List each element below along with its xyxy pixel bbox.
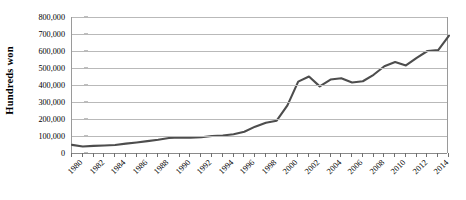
- x-tick-mark: [168, 153, 169, 157]
- x-tick-mark: [437, 153, 438, 157]
- gridline: [72, 85, 447, 86]
- series-polyline: [72, 36, 449, 147]
- x-tick-mark: [146, 153, 147, 157]
- x-tick-label: 2004: [325, 158, 343, 176]
- x-tick-label: 1984: [109, 158, 127, 176]
- x-tick-mark: [426, 153, 427, 157]
- gridline: [72, 51, 447, 52]
- x-tick-mark: [189, 153, 190, 157]
- x-tick-mark: [93, 153, 94, 157]
- x-tick-label: 1990: [174, 158, 192, 176]
- x-tick-label: 2012: [411, 158, 429, 176]
- x-tick-mark: [340, 153, 341, 157]
- x-tick-mark: [394, 153, 395, 157]
- x-tick-mark: [71, 153, 72, 157]
- x-tick-label: 1980: [66, 158, 84, 176]
- y-tick-label: 500,000: [38, 64, 65, 73]
- x-tick-label: 1982: [88, 158, 106, 176]
- x-tick-label: 2010: [389, 158, 407, 176]
- x-tick-mark: [448, 153, 449, 157]
- plot-area: [71, 17, 448, 153]
- x-tick-mark: [297, 153, 298, 157]
- y-tick-label: 800,000: [38, 13, 65, 22]
- y-tick-label: 700,000: [38, 30, 65, 39]
- x-tick-mark: [254, 153, 255, 157]
- x-tick-mark: [243, 153, 244, 157]
- x-tick-mark: [233, 153, 234, 157]
- y-tick-label: 200,000: [38, 115, 65, 124]
- x-axis-tick-labels: 1980198219841986198819901992199419961998…: [71, 158, 448, 200]
- x-tick-mark: [373, 153, 374, 157]
- x-tick-mark: [114, 153, 115, 157]
- gridline: [72, 102, 447, 103]
- x-tick-label: 2000: [282, 158, 300, 176]
- x-tick-mark: [125, 153, 126, 157]
- gridline: [72, 119, 447, 120]
- x-tick-label: 1998: [260, 158, 278, 176]
- x-tick-mark: [136, 153, 137, 157]
- line-chart: Hundreds won 0100,000200,000300,000400,0…: [0, 0, 466, 200]
- x-tick-label: 1986: [131, 158, 149, 176]
- x-tick-label: 2006: [346, 158, 364, 176]
- x-tick-label: 2002: [303, 158, 321, 176]
- x-tick-mark: [211, 153, 212, 157]
- x-tick-mark: [265, 153, 266, 157]
- gridline: [72, 34, 447, 35]
- gridline: [72, 17, 447, 18]
- x-tick-label: 1992: [195, 158, 213, 176]
- x-tick-mark: [362, 153, 363, 157]
- y-axis-tick-labels: 0100,000200,000300,000400,000500,000600,…: [16, 10, 68, 153]
- x-tick-mark: [351, 153, 352, 157]
- x-tick-mark: [82, 153, 83, 157]
- x-tick-mark: [319, 153, 320, 157]
- x-tick-mark: [416, 153, 417, 157]
- x-tick-mark: [179, 153, 180, 157]
- x-tick-mark: [308, 153, 309, 157]
- x-tick-label: 1994: [217, 158, 235, 176]
- y-tick-label: 400,000: [38, 81, 65, 90]
- x-tick-mark: [330, 153, 331, 157]
- y-tick-label: 0: [61, 149, 65, 158]
- x-tick-mark: [405, 153, 406, 157]
- x-tick-mark: [157, 153, 158, 157]
- x-tick-mark: [286, 153, 287, 157]
- y-tick-label: 300,000: [38, 98, 65, 107]
- x-tick-mark: [383, 153, 384, 157]
- x-tick-label: 1996: [238, 158, 256, 176]
- x-tick-mark: [276, 153, 277, 157]
- y-tick-label: 600,000: [38, 47, 65, 56]
- x-tick-mark: [222, 153, 223, 157]
- gridline: [72, 136, 447, 137]
- x-tick-label: 2008: [368, 158, 386, 176]
- x-tick-label: 1988: [152, 158, 170, 176]
- gridline: [72, 68, 447, 69]
- x-tick-mark: [103, 153, 104, 157]
- y-axis-title-label: Hundreds won: [4, 46, 15, 114]
- x-tick-mark: [200, 153, 201, 157]
- x-tick-label: 2014: [432, 158, 450, 176]
- y-tick-label: 100,000: [38, 132, 65, 141]
